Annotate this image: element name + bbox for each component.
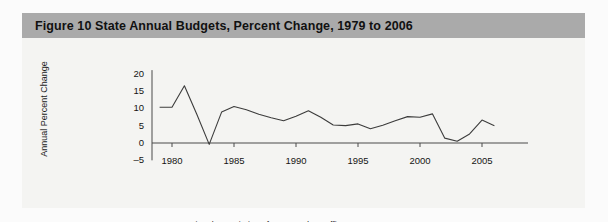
figure-page: Figure 10 State Annual Budgets, Percent … — [0, 0, 608, 222]
figure-title: Figure 10 State Annual Budgets, Percent … — [22, 19, 413, 33]
data-series-line — [160, 86, 495, 145]
chart-ticks — [172, 143, 482, 147]
source-label: Source: — [150, 220, 180, 222]
figure-title-bar: Figure 10 State Annual Budgets, Percent … — [22, 13, 585, 38]
line-chart-svg — [22, 38, 585, 208]
source-note: Source: National Association of State Bu… — [150, 220, 353, 222]
source-text: National Association of State Budget Off… — [182, 220, 353, 222]
chart-plot-area: Annual Percent Change 20151050–5 1980198… — [22, 38, 585, 208]
chart-axes — [152, 70, 528, 160]
figure-panel: Annual Percent Change 20151050–5 1980198… — [22, 38, 585, 208]
